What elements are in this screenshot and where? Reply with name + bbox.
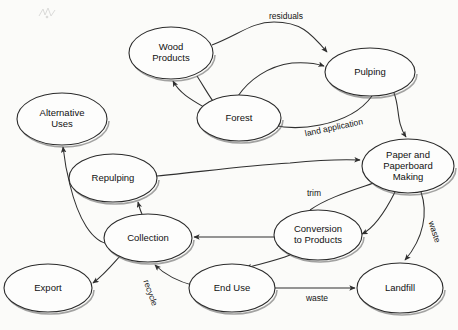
- node-alternative-uses[interactable]: AlternativeUses: [17, 93, 109, 147]
- node-label: Repulping: [92, 172, 135, 183]
- node-label: Making: [393, 171, 424, 182]
- node-label: Alternative: [40, 107, 85, 118]
- flow-diagram: WoodProductsPulpingForestAlternativeUses…: [0, 0, 458, 330]
- node-label: Forest: [226, 112, 253, 123]
- edge-forest-to-pulping: [238, 63, 324, 96]
- node-label: Conversion: [294, 223, 342, 234]
- edge-label-end-use-to-collection: recycle: [141, 278, 160, 307]
- edge-label-end-use-to-landfill: waste: [305, 293, 328, 303]
- node-label: Uses: [51, 118, 73, 129]
- node-label: Pulping: [354, 66, 386, 77]
- edge-label-paper-making-to-landfill: waste: [426, 219, 443, 244]
- edge-pulping-to-paper-making: [394, 93, 406, 137]
- node-label: Paperboard: [383, 160, 433, 171]
- edge-label-conversion-to-paper-making: trim: [307, 188, 321, 198]
- edge-paper-making-to-landfill: [405, 192, 424, 260]
- edge-end-use-to-collection: [155, 265, 195, 286]
- node-landfill[interactable]: Landfill: [357, 263, 445, 315]
- edge-repulping-to-paper-making: [157, 160, 360, 176]
- edge-conversion-to-end-use: [246, 255, 290, 268]
- edge-wood-products-to-pulping: [212, 22, 327, 52]
- node-label: Export: [34, 282, 62, 293]
- node-label: End Use: [214, 282, 250, 293]
- node-export[interactable]: Export: [4, 264, 94, 314]
- node-label: to Products: [294, 234, 342, 245]
- node-label: Landfill: [385, 282, 415, 293]
- node-label: Wood: [159, 41, 184, 52]
- nodes-layer: WoodProductsPulpingForestAlternativeUses…: [4, 27, 456, 315]
- node-pulping[interactable]: Pulping: [325, 48, 417, 98]
- edge-collection-to-export: [93, 255, 121, 283]
- node-collection[interactable]: Collection: [104, 214, 194, 264]
- node-label: Paper and: [386, 149, 430, 160]
- node-paper-making[interactable]: Paper andPaperboardMaking: [362, 139, 456, 195]
- node-end-use[interactable]: End Use: [189, 264, 277, 314]
- node-conversion[interactable]: Conversionto Products: [274, 210, 364, 262]
- node-wood-products[interactable]: WoodProducts: [129, 27, 215, 81]
- node-forest[interactable]: Forest: [197, 95, 283, 143]
- edge-label-pulping-to-forest: land application: [304, 116, 364, 138]
- diagram-canvas: WoodProductsPulpingForestAlternativeUses…: [0, 0, 458, 330]
- edge-collection-to-repulping: [138, 202, 142, 214]
- node-label: Collection: [127, 232, 169, 243]
- edge-paper-making-to-conversion: [362, 192, 395, 234]
- edge-label-wood-products-to-pulping: residuals: [269, 11, 303, 21]
- node-label: Products: [152, 52, 190, 63]
- node-repulping[interactable]: Repulping: [69, 154, 159, 204]
